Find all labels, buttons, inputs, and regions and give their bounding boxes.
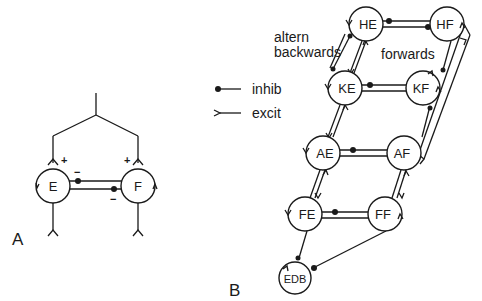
diagram-canvas: + + − − E F A inhib excit altern b [0, 0, 482, 301]
panel-b-label: B [229, 281, 240, 300]
output-fork-e-icon [48, 230, 58, 236]
node-hf-label: HF [436, 17, 453, 32]
altern-dot-bottom [331, 67, 336, 72]
node-hf: HF [430, 7, 465, 41]
hf-kf-dot [441, 68, 446, 73]
node-ff-label: FF [375, 207, 391, 222]
excit-fork-ke-down-icon [343, 105, 348, 110]
node-ff: FF [368, 197, 403, 231]
panel-a-label: A [12, 230, 24, 249]
loop-fork-top-icon [460, 38, 466, 45]
node-ke: KE [325, 71, 362, 105]
legend-excit-fork-icon [214, 110, 220, 116]
ke-ae-link-1 [328, 105, 340, 137]
node-edb: EDB [279, 262, 311, 294]
annotation-backwards: backwards [274, 44, 341, 60]
fe-edb-link [299, 231, 307, 258]
input-branch-right [96, 115, 138, 136]
node-ae-label: AE [316, 146, 334, 161]
panel-b: inhib excit altern backwards forwards [214, 7, 470, 300]
annotation-forwards: forwards [381, 46, 435, 62]
node-af: AF [387, 136, 421, 170]
excit-fork-ff-icon [399, 193, 404, 198]
sign-f-minus: − [110, 193, 116, 205]
sign-e-plus: + [61, 154, 67, 166]
input-branch-left [53, 115, 96, 136]
kf-af-dot [428, 106, 433, 111]
output-fork-f-icon [133, 230, 143, 236]
loop-right-top [464, 24, 470, 35]
sign-f-plus: + [124, 154, 130, 166]
node-e-label: E [49, 179, 58, 194]
ff-edb-link [315, 231, 386, 267]
legend-inhib-label: inhib [252, 81, 282, 97]
node-kf-label: KF [413, 81, 430, 96]
node-fe: FE [285, 197, 322, 231]
inhib-pair-h [383, 18, 431, 30]
node-he-label: HE [359, 17, 377, 32]
inhib-dot-f [111, 186, 117, 192]
legend-excit-label: excit [252, 105, 281, 121]
node-f-label: F [134, 179, 142, 194]
node-edb-label: EDB [284, 273, 307, 285]
node-af-label: AF [394, 146, 411, 161]
fe-edb-dot [296, 256, 301, 261]
node-ae: AE [303, 136, 340, 170]
node-kf: KF [406, 71, 441, 105]
annotation-altern: altern [274, 29, 309, 45]
inhib-dot-e [75, 178, 81, 184]
excit-fork-ae-down-icon [323, 170, 328, 175]
panel-a: + + − − E F A [12, 93, 157, 249]
ff-edb-dot [311, 265, 317, 271]
node-ke-label: KE [338, 81, 356, 96]
excit-fork-af-icon [404, 171, 409, 176]
node-fe-label: FE [299, 207, 316, 222]
sign-e-minus: − [74, 166, 80, 178]
